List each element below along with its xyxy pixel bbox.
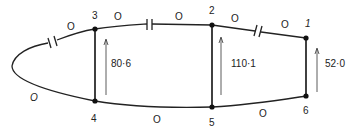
arrow-up-icon bbox=[315, 48, 319, 92]
node-label-2: 2 bbox=[209, 5, 215, 16]
edge-label-left-upper: O bbox=[67, 21, 75, 32]
wire-left-lower bbox=[12, 66, 95, 101]
edge-label-5-6: O bbox=[259, 108, 267, 119]
edge-label-2-cap: O bbox=[231, 13, 239, 24]
edge-label-3-cap: O bbox=[114, 11, 122, 22]
node-label-4: 4 bbox=[91, 113, 97, 124]
wire-left-upper-2 bbox=[57, 29, 95, 40]
wire-3-cap bbox=[95, 24, 147, 29]
capacitor-icon bbox=[147, 19, 152, 30]
arrow-up-icon bbox=[219, 37, 223, 95]
node-label-5: 5 bbox=[209, 117, 215, 128]
branch-value-4-3: 80·6 bbox=[111, 58, 131, 69]
node-5 bbox=[209, 104, 214, 109]
wire-left-upper bbox=[12, 43, 48, 66]
capacitor-icon bbox=[254, 25, 262, 37]
network-diagram: 1 2 3 4 5 6 80·6 110·1 52·0 O O O O O O … bbox=[0, 0, 358, 129]
edge-label-left-lower: O bbox=[30, 92, 38, 103]
node-3 bbox=[92, 26, 97, 31]
node-1 bbox=[303, 35, 308, 40]
branch-value-6-1: 52·0 bbox=[325, 58, 345, 69]
edge-label-cap-2: O bbox=[175, 11, 183, 22]
arrow-up-icon bbox=[104, 39, 108, 95]
edge-label-4-5: O bbox=[153, 114, 161, 125]
node-2 bbox=[209, 22, 214, 27]
branch-value-5-2: 110·1 bbox=[231, 58, 256, 69]
edge-label-cap-1: O bbox=[281, 19, 289, 30]
wire-cap-2 bbox=[152, 24, 212, 25]
wire-2-cap bbox=[212, 25, 255, 31]
capacitor-icon bbox=[48, 36, 57, 48]
node-label-3: 3 bbox=[92, 10, 98, 21]
wire-cap-1 bbox=[261, 32, 306, 38]
node-label-1: 1 bbox=[305, 18, 311, 29]
node-label-6: 6 bbox=[303, 105, 309, 116]
wire-4-5 bbox=[95, 101, 212, 107]
node-6 bbox=[303, 93, 308, 98]
wire-5-6 bbox=[212, 96, 306, 107]
node-4 bbox=[92, 98, 97, 103]
